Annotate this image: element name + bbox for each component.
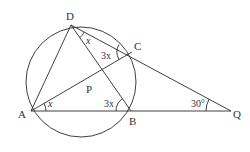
point-label-B: B	[129, 115, 136, 127]
angle-label-C: 3x	[101, 50, 111, 61]
angle-arc-D	[80, 32, 84, 38]
segment-AC	[31, 52, 132, 111]
segment-DQ-through-C	[71, 25, 231, 111]
angle-arc-C	[117, 45, 119, 60]
point-label-D: D	[66, 10, 74, 22]
angle-arc-B	[116, 99, 122, 111]
point-label-C: C	[134, 40, 141, 52]
point-label-Q: Q	[233, 108, 241, 120]
geometry-diagram: D C P A B Q x 3x x 3x 30°	[0, 0, 250, 152]
point-label-P: P	[86, 83, 92, 95]
angle-label-B: 3x	[104, 98, 114, 109]
angle-arc-Q	[206, 99, 209, 111]
angle-arc-A	[44, 103, 46, 111]
point-label-A: A	[18, 108, 26, 120]
angle-label-D: x	[85, 35, 91, 46]
angle-label-A: x	[47, 98, 53, 109]
angle-label-Q: 30°	[191, 98, 205, 109]
